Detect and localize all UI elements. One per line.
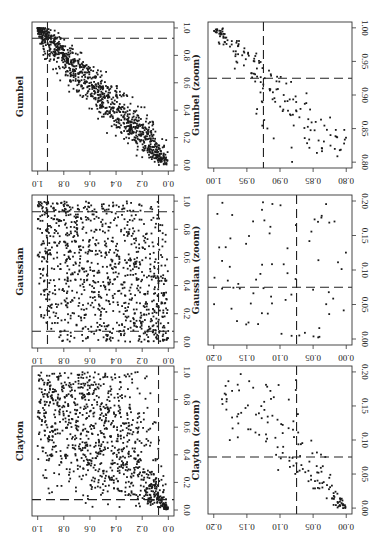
copula-scatter-figure: 0.00.00.20.20.40.40.60.60.80.81.01.0Gumb… [0,0,386,556]
x-tick-label: 1.00 [360,20,370,36]
y-tick-label: 1.00 [205,176,221,186]
y-tick-label: 0.00 [338,522,354,532]
y-tick-label: 0.8 [58,356,70,366]
y-tick-label: 1.0 [32,356,44,366]
panel-title: Clayton (zoom) [190,400,201,481]
y-tick-label: 0.6 [84,524,96,534]
y-tick-label: 0.15 [239,522,255,532]
scatter-points [213,28,347,163]
scatter-points [213,201,347,338]
x-tick-label: 0.15 [360,398,370,414]
plot-frame [208,195,352,345]
scatter-points [37,201,169,343]
x-tick-label: 0.0 [182,336,192,348]
panel-clayton: 0.00.00.20.20.40.40.60.60.80.81.01.0Clay… [14,366,192,534]
x-tick-label: 0.95 [360,54,370,70]
y-tick-label: 0.20 [205,522,221,532]
y-tick-label: 0.05 [305,522,321,532]
scatter-points [37,27,169,166]
y-tick-label: 0.20 [205,353,221,363]
y-tick-label: 0.10 [272,353,288,363]
x-tick-label: 0.85 [360,121,370,137]
x-tick-label: 0.90 [360,87,370,103]
x-tick-label: 0.20 [360,193,370,209]
panel-title: Clayton [14,421,25,462]
x-tick-label: 0.05 [360,297,370,313]
y-tick-label: 0.4 [110,179,122,189]
panel-title: Gumbel (zoom) [190,54,201,136]
y-tick-label: 0.6 [84,179,96,189]
y-tick-label: 0.6 [84,356,96,366]
y-tick-label: 0.0 [162,356,174,366]
x-tick-label: 0.10 [360,432,370,448]
panel-claytonzoom: 0.000.000.050.050.100.100.150.150.200.20… [190,364,370,532]
y-tick-label: 0.4 [110,524,122,534]
y-tick-label: 0.85 [305,176,321,186]
x-tick-label: 0.05 [360,466,370,482]
y-tick-label: 0.8 [58,524,70,534]
y-tick-label: 0.2 [137,356,148,366]
y-tick-label: 0.10 [272,522,288,532]
y-tick-label: 0.0 [162,524,174,534]
y-tick-label: 0.4 [110,356,122,366]
x-tick-label: 0.0 [182,504,192,516]
panel-title: Gumbel [14,75,25,117]
y-tick-label: 0.05 [305,353,321,363]
y-tick-label: 0.15 [239,353,255,363]
y-tick-label: 0.8 [58,179,70,189]
panel-title: Gaussian [14,247,25,296]
panel-gumbelzoom: 0.800.800.850.850.900.900.950.951.001.00… [190,20,370,186]
panel-gumbel: 0.00.00.20.20.40.40.60.60.80.81.01.0Gumb… [14,22,192,189]
x-tick-label: 0.20 [360,364,370,380]
y-tick-label: 0.0 [162,179,174,189]
x-tick-label: 0.0 [182,159,192,171]
y-tick-label: 1.0 [32,179,44,189]
y-tick-label: 0.2 [137,524,148,534]
panel-gauss: 0.00.00.20.20.40.40.60.60.80.81.01.0Gaus… [14,195,192,366]
x-tick-label: 0.10 [360,262,370,278]
y-tick-label: 0.00 [338,353,354,363]
x-tick-label: 1.0 [182,195,192,207]
x-tick-label: 1.0 [182,22,192,34]
x-tick-label: 0.00 [360,500,370,516]
y-tick-label: 0.80 [338,176,354,186]
y-tick-label: 0.95 [239,176,255,186]
x-tick-label: 1.0 [182,366,192,378]
y-tick-label: 0.2 [137,179,148,189]
y-tick-label: 0.90 [272,176,288,186]
scatter-points [37,371,169,510]
x-tick-label: 0.00 [360,331,370,347]
x-tick-label: 0.80 [360,154,370,170]
scatter-points [221,373,346,509]
panel-gausszoom: 0.000.000.050.050.100.100.150.150.200.20… [190,193,370,363]
y-tick-label: 1.0 [32,524,44,534]
panel-title: Gaussian (zoom) [190,226,201,315]
x-tick-label: 0.15 [360,228,370,244]
